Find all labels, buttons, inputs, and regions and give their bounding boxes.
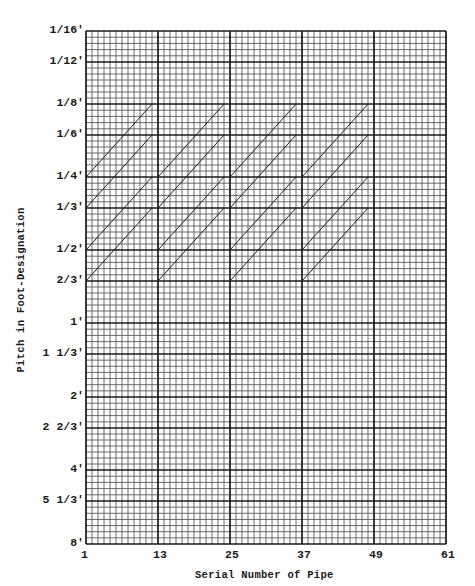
y-axis-title: Pitch in Foot-Designation [15, 207, 27, 372]
x-tick-label: 49 [369, 549, 383, 561]
y-tick-label: 1/3' [56, 201, 84, 213]
y-tick-label: 1' [70, 316, 84, 328]
y-tick-label: 2 2/3' [43, 421, 84, 433]
x-tick-label: 1 [81, 549, 88, 561]
y-tick-label: 4' [70, 463, 84, 475]
y-tick-label: 1/12' [49, 55, 84, 67]
y-tick-label: 1/16' [49, 24, 84, 36]
y-tick-label: 1/8' [56, 97, 84, 109]
y-tick-label: 2' [70, 390, 84, 402]
y-tick-label: 2/3' [56, 274, 84, 286]
y-tick-label: 1/6' [56, 128, 84, 140]
grid-minor-lines [86, 31, 446, 544]
y-tick-label: 5 1/3' [43, 494, 84, 506]
y-tick-label: 1 1/3' [43, 347, 84, 359]
y-tick-label: 1/2' [56, 243, 84, 255]
y-tick-label: 1/4' [56, 170, 84, 182]
x-tick-label: 13 [153, 549, 167, 561]
x-tick-label: 61 [441, 549, 455, 561]
x-tick-label: 37 [297, 549, 311, 561]
x-tick-label: 25 [225, 549, 239, 561]
x-axis-title: Serial Number of Pipe [195, 569, 334, 581]
